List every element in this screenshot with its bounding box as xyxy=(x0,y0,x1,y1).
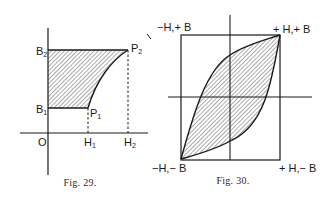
label-bottom-right: + H,− B xyxy=(279,162,316,174)
figure-30: −H,+ B + H,+ B −H,− B + H,− B Fig. 30. xyxy=(147,15,316,186)
caption-fig-30: Fig. 30. xyxy=(216,175,249,186)
diagram-canvas: B2 B1 P2 P1 O H1 H2 Fig. 29. −H,+ B + H,… xyxy=(0,0,329,198)
label-origin: O xyxy=(38,136,47,148)
label-top-right: + H,+ B xyxy=(273,23,310,35)
label-p1: P1 xyxy=(90,107,101,120)
label-b1: B1 xyxy=(36,103,47,116)
label-bottom-left: −H,− B xyxy=(152,162,186,174)
label-top-left: −H,+ B xyxy=(157,21,191,33)
label-b2: B2 xyxy=(36,45,47,58)
stray-mark xyxy=(147,34,151,39)
label-h2: H2 xyxy=(124,136,136,149)
caption-fig-29: Fig. 29. xyxy=(63,177,96,188)
label-h1: H1 xyxy=(84,136,96,149)
figure-29: B2 B1 P2 P1 O H1 H2 Fig. 29. xyxy=(20,28,148,188)
label-p2: P2 xyxy=(131,42,142,55)
